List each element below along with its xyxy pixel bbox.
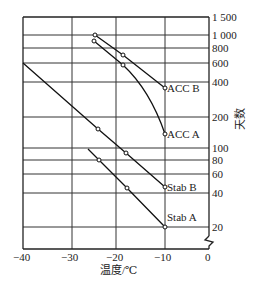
svg-text:−10: −10	[154, 251, 172, 263]
svg-text:40: 40	[212, 187, 224, 199]
svg-text:−20: −20	[106, 251, 124, 263]
svg-text:20: 20	[212, 221, 224, 233]
x-tick-labels: −40 −30 −20 −10 0	[13, 251, 211, 263]
svg-text:800: 800	[212, 42, 229, 54]
svg-text:200: 200	[212, 111, 229, 123]
svg-text:1 000: 1 000	[212, 29, 237, 41]
svg-text:1 500: 1 500	[212, 11, 237, 23]
svg-text:0: 0	[205, 251, 211, 263]
x-axis-label: 温度/℃	[100, 263, 137, 276]
label-acc-b: ACC B	[167, 82, 200, 94]
svg-text:600: 600	[212, 57, 229, 69]
label-stab-b: Stab B	[167, 181, 197, 193]
svg-text:80: 80	[212, 154, 224, 166]
label-acc-a: ACC A	[167, 128, 200, 140]
label-stab-a: Stab A	[167, 211, 197, 223]
svg-text:400: 400	[212, 76, 229, 88]
svg-text:100: 100	[212, 142, 229, 154]
chart: ACC B ACC A Stab B Stab A 1 500 1 000 80…	[0, 0, 256, 284]
svg-text:−40: −40	[13, 251, 31, 263]
svg-text:−30: −30	[61, 251, 79, 263]
y-axis-label: 天数	[234, 108, 246, 130]
svg-text:60: 60	[212, 168, 224, 180]
